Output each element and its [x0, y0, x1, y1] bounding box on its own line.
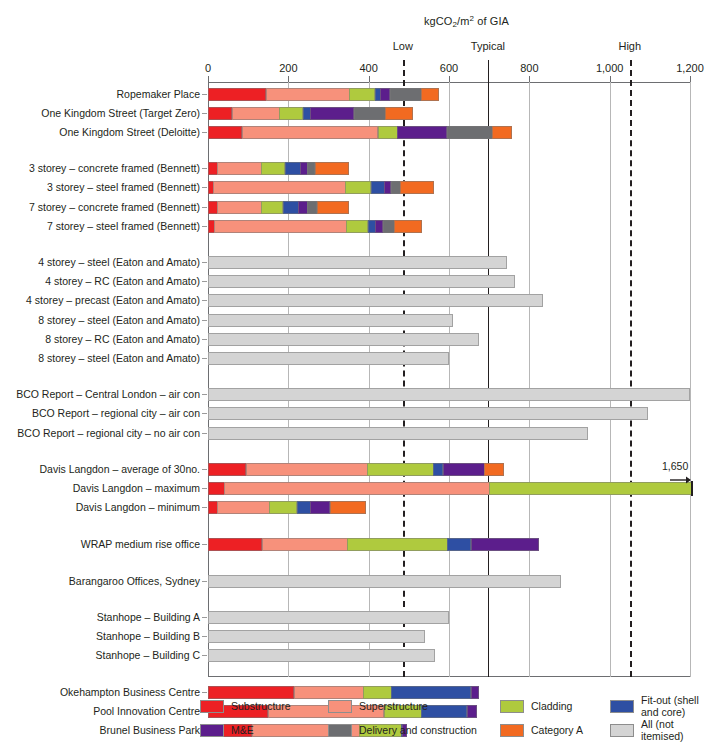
stacked-bar[interactable]	[208, 220, 422, 233]
bar-segment-cladding	[279, 107, 303, 120]
bar-segment-substructure	[208, 88, 266, 101]
bar-row[interactable]: 4 storey – steel (Eaton and Amato)	[0, 255, 722, 270]
bar-segment-categorya	[330, 501, 366, 514]
bar-row[interactable]: Stanhope – Building A	[0, 610, 722, 625]
bar-segment-all	[208, 294, 543, 307]
stacked-bar[interactable]	[208, 126, 512, 139]
legend-swatch	[200, 724, 224, 737]
stacked-bar[interactable]	[208, 501, 366, 514]
stacked-bar[interactable]	[208, 482, 692, 495]
bar-row[interactable]: One Kingdom Street (Target Zero)	[0, 106, 722, 121]
stacked-bar[interactable]	[208, 181, 434, 194]
bar-segment-cladding	[378, 126, 398, 139]
bar-segment-superstructure	[232, 107, 280, 120]
stacked-bar[interactable]	[208, 611, 449, 624]
row-tick-mark	[202, 339, 207, 340]
bar-row[interactable]: 3 storey – steel framed (Bennett)	[0, 180, 722, 195]
legend-swatch	[200, 700, 224, 713]
bar-segment-categorya	[385, 107, 413, 120]
stacked-bar[interactable]	[208, 294, 543, 307]
bar-row[interactable]: Davis Langdon – maximum1,650	[0, 481, 722, 496]
bar-row-label: One Kingdom Street (Deloitte)	[0, 125, 200, 140]
bar-row[interactable]: Stanhope – Building C	[0, 648, 722, 663]
legend-item[interactable]: Superstructure	[328, 700, 500, 713]
bar-row[interactable]: 4 storey – RC (Eaton and Amato)	[0, 274, 722, 289]
bar-row[interactable]: 8 storey – steel (Eaton and Amato)	[0, 351, 722, 366]
benchmark-label-low: Low	[393, 40, 413, 52]
stacked-bar[interactable]	[208, 538, 539, 551]
bar-segment-all	[208, 407, 648, 420]
stacked-bar[interactable]	[208, 201, 349, 214]
stacked-bar[interactable]	[208, 388, 690, 401]
bar-segment-superstructure	[246, 463, 369, 476]
legend-item[interactable]: Fit-out (shell and core)	[610, 694, 700, 718]
row-tick-mark	[202, 544, 207, 545]
legend-label: Superstructure	[359, 700, 428, 712]
bar-row[interactable]: Davis Langdon – minimum	[0, 500, 722, 515]
legend-item[interactable]: Substructure	[200, 700, 328, 713]
stacked-bar[interactable]	[208, 333, 479, 346]
chart-legend: SubstructureSuperstructureCladdingFit-ou…	[200, 694, 700, 742]
stacked-bar[interactable]	[208, 88, 439, 101]
bar-row[interactable]: Davis Langdon – average of 30no.	[0, 462, 722, 477]
bar-row[interactable]: 8 storey – RC (Eaton and Amato)	[0, 332, 722, 347]
bar-segment-all	[208, 388, 690, 401]
stacked-bar[interactable]	[208, 275, 515, 288]
stacked-bar[interactable]	[208, 314, 453, 327]
bar-segment-cladding	[367, 463, 433, 476]
bar-row-label: BCO Report – regional city – air con	[0, 406, 200, 421]
bar-row[interactable]: 4 storey – precast (Eaton and Amato)	[0, 293, 722, 308]
stacked-bar[interactable]	[208, 162, 349, 175]
bar-row-label: 4 storey – precast (Eaton and Amato)	[0, 293, 200, 308]
bar-segment-superstructure	[217, 501, 269, 514]
row-tick-mark	[202, 507, 207, 508]
legend-item[interactable]: M&E	[200, 724, 328, 737]
bar-segment-me	[310, 501, 330, 514]
bar-row[interactable]: BCO Report – regional city – no air con	[0, 426, 722, 441]
stacked-bar[interactable]	[208, 463, 504, 476]
overflow-bar-cap	[691, 481, 693, 496]
bar-segment-cladding	[261, 201, 283, 214]
bar-row[interactable]: BCO Report – Central London – air con	[0, 387, 722, 402]
legend-item[interactable]: Cladding	[500, 700, 610, 713]
stacked-bar[interactable]	[208, 630, 425, 643]
stacked-bar[interactable]	[208, 107, 413, 120]
bar-row-label: 8 storey – steel (Eaton and Amato)	[0, 313, 200, 328]
stacked-bar[interactable]	[208, 427, 588, 440]
axis-title-pre: kgCO	[424, 15, 453, 27]
bar-row[interactable]: One Kingdom Street (Deloitte)	[0, 125, 722, 140]
legend-item[interactable]: All (not itemised)	[610, 718, 700, 742]
plot-area: Ropemaker PlaceOne Kingdom Street (Targe…	[208, 82, 690, 677]
stacked-bar[interactable]	[208, 352, 449, 365]
bar-segment-cladding	[489, 482, 692, 495]
bar-segment-all	[208, 649, 435, 662]
stacked-bar[interactable]	[208, 256, 507, 269]
bar-row[interactable]: 7 storey – steel framed (Bennett)	[0, 219, 722, 234]
bar-segment-superstructure	[266, 88, 350, 101]
bar-row[interactable]: 3 storey – concrete framed (Bennett)	[0, 161, 722, 176]
stacked-bar[interactable]	[208, 649, 435, 662]
stacked-bar[interactable]	[208, 575, 561, 588]
bar-row[interactable]: Ropemaker Place	[0, 87, 722, 102]
bar-segment-all	[208, 352, 449, 365]
bar-segment-cladding	[349, 88, 375, 101]
stacked-bar[interactable]	[208, 407, 648, 420]
bar-row[interactable]: WRAP medium rise office	[0, 537, 722, 552]
bar-segment-superstructure	[217, 201, 261, 214]
bar-row[interactable]: 7 storey – concrete framed (Bennett)	[0, 200, 722, 215]
legend-item[interactable]: Category A	[500, 724, 610, 737]
x-tick-label: 800	[520, 62, 538, 74]
bar-row[interactable]: Stanhope – Building B	[0, 629, 722, 644]
legend-label: M&E	[231, 724, 254, 736]
axis-title-post: of GIA	[474, 15, 509, 27]
row-tick-mark	[202, 413, 207, 414]
bar-segment-substructure	[208, 107, 232, 120]
bar-row[interactable]: BCO Report – regional city – air con	[0, 406, 722, 421]
bar-row[interactable]: 8 storey – steel (Eaton and Amato)	[0, 313, 722, 328]
embodied-carbon-benchmark-chart: kgCO2/m2 of GIA LowTypicalHigh 020040060…	[0, 0, 722, 745]
row-tick-mark	[202, 488, 207, 489]
bar-row[interactable]: Barangaroo Offices, Sydney	[0, 574, 722, 589]
bar-row-label: 4 storey – steel (Eaton and Amato)	[0, 255, 200, 270]
bar-segment-all	[208, 256, 507, 269]
legend-item[interactable]: Delivery and construction	[328, 724, 500, 737]
